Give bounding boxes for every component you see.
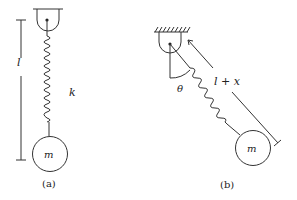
mass-label-b: m <box>247 143 256 154</box>
angle-label: θ <box>177 83 183 94</box>
dim-line-upper-b <box>188 40 213 68</box>
spring-a <box>44 36 50 122</box>
panel-a <box>16 9 68 172</box>
mass-label-a: m <box>44 149 53 160</box>
length-label-a: l <box>17 56 21 69</box>
spring-pendulum-diagram: l k m (a) <box>0 0 297 200</box>
dim-line-lower-b <box>232 92 278 143</box>
length-label-b: l + x <box>214 75 241 88</box>
ceiling-hatch <box>155 27 190 32</box>
caption-b: (b) <box>220 179 234 190</box>
rod-bottom-b <box>227 124 240 135</box>
panel-b <box>154 27 281 166</box>
angle-arc <box>170 70 190 78</box>
dim-bottom-tick-b <box>274 140 281 146</box>
caption-a: (a) <box>42 178 56 189</box>
spring-constant-label: k <box>69 86 76 99</box>
